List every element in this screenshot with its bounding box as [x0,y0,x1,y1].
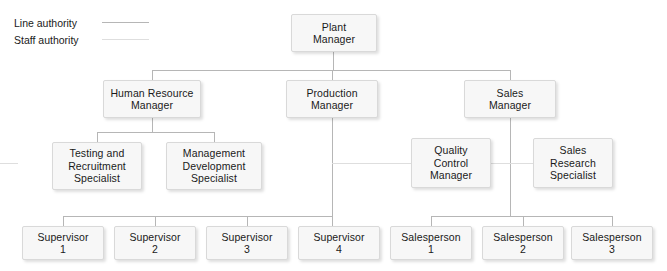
connector-drop-salesperson-2 [523,216,524,226]
node-testing-and-recruitment-specialist[interactable]: Testing and Recruitment Specialist [52,142,142,190]
legend-label-line-authority: Line authority [14,17,102,29]
connector-managers-bus [152,70,510,71]
node-supervisor-2[interactable]: Supervisor 2 [114,226,196,260]
node-management-development-specialist[interactable]: Management Development Specialist [166,142,262,190]
org-chart: Line authority Staff authority Plant Man… [0,0,667,271]
connector-salespersons-bus [431,216,612,217]
connector-drop-production-manager [332,70,333,80]
node-plant-manager[interactable]: Plant Manager [291,14,377,52]
staff-authority-swatch-icon [102,39,149,40]
legend-item-staff-authority: Staff authority [14,31,149,48]
connector-drop-supervisor-3 [247,216,248,226]
connector-drop-salesperson-3 [612,216,613,226]
node-salesperson-3[interactable]: Salesperson 3 [571,226,653,260]
node-supervisor-4[interactable]: Supervisor 4 [298,226,380,260]
connector-drop-salesperson-1 [431,216,432,226]
line-authority-swatch-icon [102,22,149,23]
node-supervisor-3[interactable]: Supervisor 3 [206,226,288,260]
node-production-manager[interactable]: Production Manager [286,80,378,118]
connector-drop-supervisor-1 [63,216,64,226]
connector-drop-management-development [214,132,215,142]
connector-drop-human-resource-manager [152,70,153,80]
node-supervisor-1[interactable]: Supervisor 1 [22,226,104,260]
connector-human-resource-manager-stem [152,118,153,132]
connector-plant-manager-stem [333,52,334,70]
connector-staff-sales-to-quality-control [491,163,511,164]
legend: Line authority Staff authority [14,14,149,48]
node-sales-research-specialist[interactable]: Sales Research Specialist [533,138,613,188]
connector-staff-sales-to-sales-research [510,163,534,164]
node-human-resource-manager[interactable]: Human Resource Manager [103,80,201,118]
node-salesperson-1[interactable]: Salesperson 1 [390,226,472,260]
connector-supervisors-bus [63,216,333,217]
connector-hr-specialists-bus [97,132,214,133]
connector-drop-sales-manager [510,70,511,80]
node-salesperson-2[interactable]: Salesperson 2 [482,226,564,260]
connector-sales-manager-stem [510,118,511,216]
connector-drop-supervisor-2 [155,216,156,226]
node-sales-manager[interactable]: Sales Manager [464,80,556,118]
connector-staff-production-to-quality-control [332,163,412,164]
connector-drop-testing-recruitment [97,132,98,142]
node-quality-control-manager[interactable]: Quality Control Manager [411,138,491,188]
connector-production-manager-stem [332,118,333,216]
legend-item-line-authority: Line authority [14,14,149,31]
connector-drop-supervisor-4 [332,216,333,226]
connector-staff-left-stub [0,163,18,164]
legend-label-staff-authority: Staff authority [14,34,102,46]
